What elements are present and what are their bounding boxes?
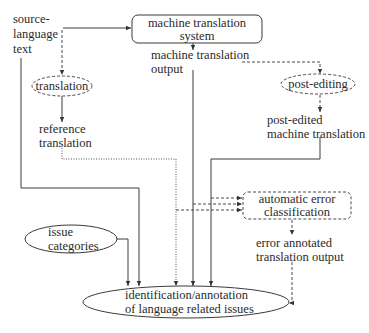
edge-issue-categories-to-identification <box>117 239 128 286</box>
node-automatic-error-classification: automatic error classification <box>243 192 351 219</box>
edge-mt-output-to-post-editing <box>242 62 320 74</box>
identification-line-2: of language related issues <box>125 302 254 316</box>
edge-error-annotated-to-identification <box>289 262 292 303</box>
mt-output-line-1: machine translation <box>151 48 250 62</box>
node-mt-output: machine translation output <box>151 48 250 76</box>
mt-system-line-1: machine translation <box>148 16 247 30</box>
node-error-annotated-output: error annotated translation output <box>256 236 344 264</box>
node-mt-system: machine translation system <box>132 15 262 43</box>
workflow-diagram: source- language text machine translatio… <box>0 0 369 333</box>
node-post-edited-mt: post-edited machine translation <box>267 113 366 141</box>
identification-line-1: identification/annotation <box>125 288 249 302</box>
mt-output-line-2: output <box>151 62 183 76</box>
issue-categories-line-1: issue <box>48 225 73 239</box>
source-text-line-2: language <box>13 27 59 41</box>
translation-label: translation <box>36 79 90 93</box>
aec-line-2: classification <box>264 205 331 219</box>
node-source-language-text: source- language text <box>13 12 59 56</box>
node-post-editing: post-editing <box>281 74 355 94</box>
error-annotated-line-2: translation output <box>256 250 344 264</box>
aec-line-1: automatic error <box>259 192 337 206</box>
node-issue-categories: issue categories <box>25 225 117 253</box>
reference-line-2: translation <box>39 136 93 150</box>
mt-system-line-2: system <box>180 29 215 43</box>
node-translation: translation <box>32 76 92 96</box>
node-reference-translation: reference translation <box>39 122 93 150</box>
post-edited-line-1: post-edited <box>267 113 323 127</box>
post-edited-line-2: machine translation <box>267 127 366 141</box>
node-identification: identification/annotation of language re… <box>83 286 289 318</box>
reference-line-1: reference <box>39 122 86 136</box>
issue-categories-line-2: categories <box>48 239 99 253</box>
source-text-line-1: source- <box>13 12 50 26</box>
post-editing-label: post-editing <box>288 77 348 91</box>
edge-reference-to-identification <box>62 148 176 286</box>
source-text-line-3: text <box>13 42 32 56</box>
error-annotated-line-1: error annotated <box>256 236 333 250</box>
